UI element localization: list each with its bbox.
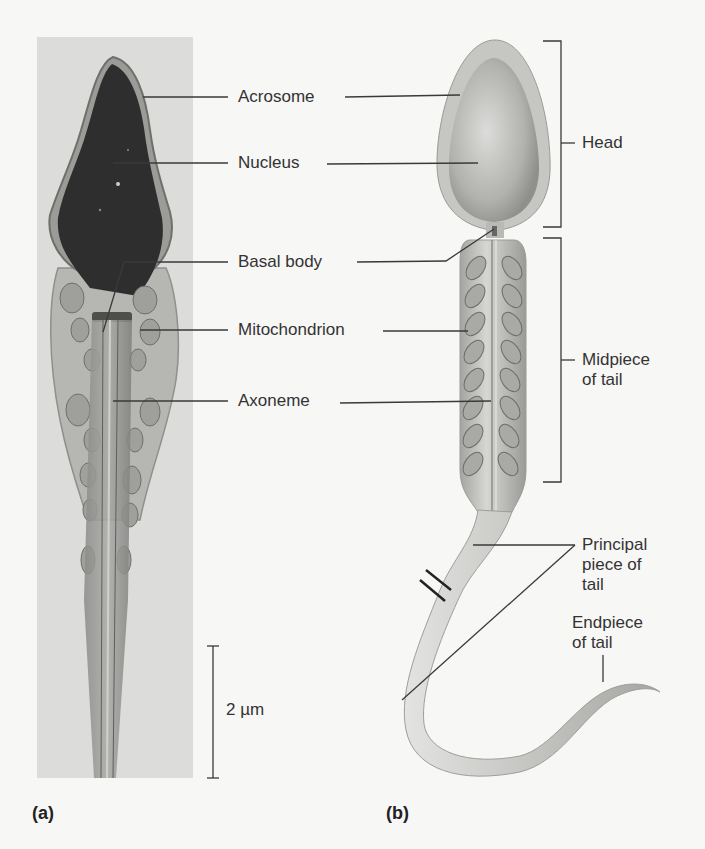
label-midpiece: Midpiece <box>582 350 650 370</box>
leader-lines <box>0 0 705 849</box>
label-axoneme: Axoneme <box>238 391 310 411</box>
label-endpiece: Endpiece <box>572 613 643 633</box>
label-acrosome: Acrosome <box>238 87 315 107</box>
label-endpiece-line2: of tail <box>572 633 613 653</box>
label-basal-body: Basal body <box>238 252 322 272</box>
panel-letter-a: (a) <box>32 803 54 824</box>
label-principal-piece-line2: piece of <box>582 555 642 575</box>
panel-letter-b: (b) <box>386 803 409 824</box>
label-nucleus: Nucleus <box>238 153 299 173</box>
label-mitochondrion: Mitochondrion <box>238 320 345 340</box>
label-midpiece-line2: of tail <box>582 370 623 390</box>
label-principal-piece-line3: tail <box>582 575 604 595</box>
label-head: Head <box>582 133 623 153</box>
label-principal-piece: Principal <box>582 535 647 555</box>
scale-bar-label: 2 µm <box>226 700 264 720</box>
